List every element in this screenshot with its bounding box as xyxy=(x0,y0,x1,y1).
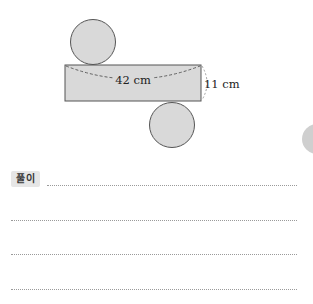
bottom-base-circle xyxy=(150,103,195,148)
answer-line-2[interactable] xyxy=(11,220,297,221)
width-label: 42 cm xyxy=(115,73,151,87)
answer-line-3[interactable] xyxy=(11,254,297,255)
cylinder-net-diagram: 42 cm 11 cm xyxy=(0,0,313,160)
answer-line-1[interactable] xyxy=(47,185,297,186)
answer-line-4[interactable] xyxy=(11,289,297,290)
solution-badge: 풀이 xyxy=(11,171,40,187)
height-label: 11 cm xyxy=(204,77,240,91)
top-base-circle xyxy=(71,20,116,65)
